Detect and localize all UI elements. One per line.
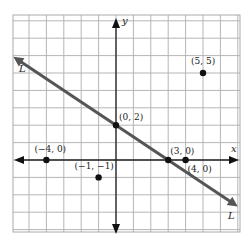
line-label-left: L — [18, 63, 26, 74]
data-point — [165, 157, 171, 163]
line-l — [13, 57, 237, 207]
data-point — [43, 157, 49, 163]
point-label: (3, 0) — [170, 146, 194, 156]
data-point — [113, 122, 119, 128]
data-point — [200, 70, 206, 76]
point-label: (−4, 0) — [34, 144, 66, 154]
data-point — [95, 174, 101, 180]
grid — [13, 15, 240, 232]
y-axis-label: y — [121, 15, 128, 26]
grid-border — [13, 15, 240, 232]
axes — [14, 18, 239, 234]
x-axis-arrow-left — [14, 156, 24, 164]
x-axis-label: x — [231, 143, 237, 154]
point-label: (5, 5) — [191, 56, 215, 66]
coordinate-plane: (5, 5)(0, 2)(3, 0)(4, 0)(−4, 0)(−1, −1) … — [0, 0, 252, 244]
y-axis-arrow-up — [112, 18, 120, 28]
point-label: (0, 2) — [119, 112, 143, 122]
line-label-right: L — [227, 210, 235, 221]
data-point — [182, 157, 188, 163]
point-label: (−1, −1) — [75, 161, 114, 171]
point-label: (4, 0) — [188, 164, 212, 174]
points: (5, 5)(0, 2)(3, 0)(4, 0)(−4, 0)(−1, −1) — [34, 56, 215, 181]
line-l-stroke — [19, 61, 231, 203]
